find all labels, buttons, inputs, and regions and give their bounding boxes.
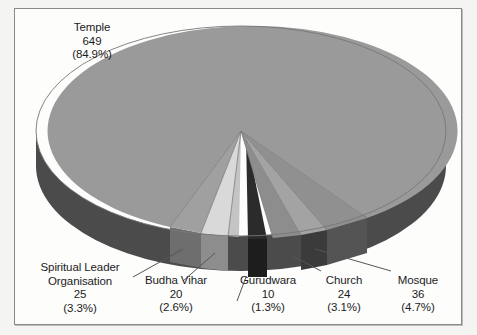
- label-spiritual-value: 25: [20, 288, 140, 302]
- label-church: Church 24 (3.1%): [309, 274, 379, 315]
- label-church-name: Church: [309, 274, 379, 288]
- label-gurudwara-name: Gurudwara: [224, 274, 312, 288]
- label-spiritual-name-line2: Organisation: [20, 275, 140, 289]
- label-mosque-name: Mosque: [381, 274, 455, 288]
- label-church-value: 24: [309, 288, 379, 302]
- label-church-percent: (3.1%): [309, 301, 379, 315]
- slice-side-budha: [201, 233, 228, 271]
- label-temple-name: Temple: [37, 21, 147, 35]
- label-budha-percent: (2.6%): [128, 301, 224, 315]
- label-budha-value: 20: [128, 288, 224, 302]
- label-gurudwara-value: 10: [224, 288, 312, 302]
- slice-side-gurudwara: [248, 239, 267, 277]
- slice-side-church: [301, 230, 327, 270]
- label-budha-name: Budha Vihar: [128, 274, 224, 288]
- label-budha-vihar: Budha Vihar 20 (2.6%): [128, 274, 224, 315]
- label-spiritual-percent: (3.3%): [20, 302, 140, 316]
- label-gurudwara: Gurudwara 10 (1.3%): [224, 274, 312, 315]
- label-temple: Temple 649 (84.9%): [37, 21, 147, 62]
- label-temple-value: 649: [37, 35, 147, 49]
- label-mosque-percent: (4.7%): [381, 301, 455, 315]
- chart-frame: Temple 649 (84.9%) Spiritual Leader Orga…: [14, 8, 462, 325]
- label-spiritual-leader-organisation: Spiritual Leader Organisation 25 (3.3%): [20, 261, 140, 315]
- label-mosque: Mosque 36 (4.7%): [381, 274, 455, 315]
- label-gurudwara-percent: (1.3%): [224, 301, 312, 315]
- label-temple-percent: (84.9%): [37, 48, 147, 62]
- label-spiritual-name-line1: Spiritual Leader: [20, 261, 140, 275]
- label-mosque-value: 36: [381, 288, 455, 302]
